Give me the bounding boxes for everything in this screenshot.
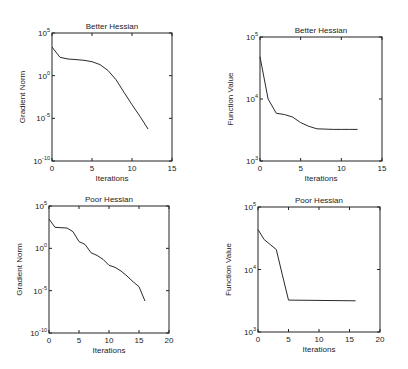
chart-title: Better Hessian xyxy=(295,26,347,35)
y-tick-label: 10-5 xyxy=(33,285,47,296)
axes-box xyxy=(49,206,169,333)
y-axis-label: Function Value xyxy=(226,72,235,125)
y-tick-label: 103 xyxy=(244,326,256,337)
y-tick-exp: -10 xyxy=(39,327,47,333)
y-tick-exp: 4 xyxy=(255,93,258,99)
y-tick-label: 10-10 xyxy=(30,327,47,338)
y-tick-exp: -10 xyxy=(42,155,50,161)
subplot-bottom-right: 05101520103104105Poor HessianIterationsF… xyxy=(224,196,385,354)
axes-box xyxy=(52,33,172,161)
x-tick-label: 0 xyxy=(258,164,263,173)
x-tick-label: 5 xyxy=(286,335,291,344)
y-tick-label: 105 xyxy=(38,27,50,38)
axes-box xyxy=(258,207,380,332)
y-tick-label: 104 xyxy=(246,93,258,104)
axes-box xyxy=(260,37,382,161)
x-tick-label: 15 xyxy=(168,164,177,173)
series-line xyxy=(258,230,356,301)
y-tick-label: 100 xyxy=(35,242,47,253)
chart-title: Poor Hessian xyxy=(85,195,133,204)
series-line xyxy=(49,219,145,301)
y-tick-label: 105 xyxy=(246,31,258,42)
y-tick-label: 10-5 xyxy=(36,112,50,123)
x-axis-label: Iterations xyxy=(93,346,126,355)
x-tick-label: 20 xyxy=(376,335,385,344)
y-tick-exp: -5 xyxy=(45,112,50,118)
chart-title: Poor Hessian xyxy=(295,196,343,205)
y-axis-label: Gradient Norm xyxy=(18,70,27,123)
y-tick-exp: 4 xyxy=(253,264,256,270)
y-tick-exp: 0 xyxy=(47,70,50,76)
y-axis-label: Gradient Norm xyxy=(15,243,24,296)
x-tick-label: 15 xyxy=(135,336,144,345)
x-tick-label: 0 xyxy=(47,336,52,345)
figure: 05101510-1010-5100105Better HessianItera… xyxy=(0,0,408,369)
y-tick-label: 105 xyxy=(244,201,256,212)
y-tick-exp: -5 xyxy=(42,285,47,291)
y-tick-label: 100 xyxy=(38,70,50,81)
x-axis-label: Iterations xyxy=(303,345,336,354)
x-tick-label: 20 xyxy=(165,336,174,345)
chart-title: Better Hessian xyxy=(86,22,138,31)
subplot-top-left: 05101510-1010-5100105Better HessianItera… xyxy=(18,22,177,183)
y-tick-exp: 0 xyxy=(44,242,47,248)
series-line xyxy=(52,47,148,129)
y-tick-exp: 5 xyxy=(253,201,256,207)
y-axis-label: Function Value xyxy=(224,243,233,296)
x-tick-label: 0 xyxy=(256,335,261,344)
x-tick-label: 10 xyxy=(105,336,114,345)
y-tick-label: 104 xyxy=(244,264,256,275)
x-tick-label: 10 xyxy=(315,335,324,344)
subplot-bottom-left: 0510152010-1010-5100105Poor HessianItera… xyxy=(15,195,174,355)
x-tick-label: 0 xyxy=(50,164,55,173)
x-tick-label: 10 xyxy=(128,164,137,173)
x-tick-label: 15 xyxy=(345,335,354,344)
y-tick-label: 103 xyxy=(246,155,258,166)
x-tick-label: 5 xyxy=(77,336,82,345)
y-tick-label: 10-10 xyxy=(33,155,50,166)
y-tick-exp: 3 xyxy=(253,326,256,332)
y-tick-exp: 5 xyxy=(47,27,50,33)
y-tick-label: 105 xyxy=(35,200,47,211)
y-tick-exp: 3 xyxy=(255,155,258,161)
y-tick-exp: 5 xyxy=(44,200,47,206)
y-tick-exp: 5 xyxy=(255,31,258,37)
x-axis-label: Iterations xyxy=(305,174,338,183)
subplot-top-right: 051015103104105Better HessianIterationsF… xyxy=(226,26,387,183)
x-tick-label: 15 xyxy=(378,164,387,173)
x-tick-label: 10 xyxy=(337,164,346,173)
series-line xyxy=(260,57,358,130)
x-tick-label: 5 xyxy=(90,164,95,173)
x-tick-label: 5 xyxy=(298,164,303,173)
x-axis-label: Iterations xyxy=(96,174,129,183)
